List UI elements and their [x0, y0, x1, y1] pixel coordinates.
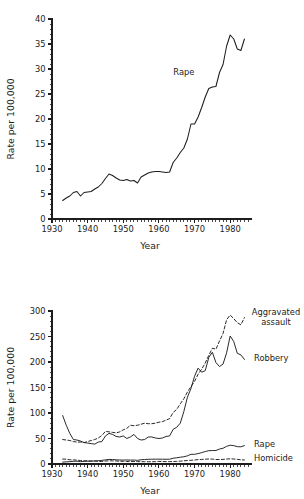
y-tick-label: 25: [35, 89, 46, 99]
y-ticks: 050100150200250300: [30, 306, 52, 469]
x-minor-ticks: [56, 464, 248, 467]
plot-top: 0510152025303540193019401950196019701980…: [0, 0, 304, 250]
y-axis-title: Rate per 100,000: [5, 78, 16, 159]
x-tick-label: 1940: [77, 224, 98, 234]
axes: [52, 310, 252, 464]
series-label-annotation: Rape: [173, 67, 194, 77]
axes: [52, 18, 252, 219]
y-tick-label: 200: [30, 357, 46, 367]
y-tick-label: 35: [35, 39, 46, 49]
chart-bottom-crime-rates: 0501001502002503001930194019501960197019…: [0, 249, 304, 499]
y-tick-label: 50: [35, 434, 46, 444]
y-axis-title: Rate per 100,000: [5, 347, 16, 428]
y-tick-label: 250: [30, 332, 46, 342]
x-tick-label: 1960: [148, 224, 169, 234]
series-group: [63, 315, 245, 462]
x-tick-label: 1960: [148, 469, 169, 479]
plot-bottom: 0501001502002503001930194019501960197019…: [0, 249, 304, 499]
series-group: [63, 35, 245, 201]
annotations: AggravatedassaultRobberyRapeHomicide: [252, 307, 300, 463]
series-label-annotation: Aggravatedassault: [252, 307, 300, 327]
series-line-robbery: [63, 336, 245, 444]
series-line-rape: [63, 35, 245, 201]
y-tick-label: 10: [35, 164, 46, 174]
y-tick-label: 0: [40, 214, 45, 224]
y-tick-label: 20: [35, 114, 46, 124]
x-axis-title: Year: [139, 485, 160, 496]
x-tick-label: 1950: [113, 469, 134, 479]
x-tick-label: 1970: [184, 469, 205, 479]
y-tick-label: 300: [30, 306, 46, 316]
x-minor-ticks: [56, 219, 248, 222]
chart-top-rape: 0510152025303540193019401950196019701980…: [0, 0, 304, 250]
y-tick-label: 40: [35, 14, 46, 24]
series-label-annotation: Rape: [254, 439, 275, 449]
annotations: Rape: [173, 67, 194, 77]
y-tick-label: 5: [40, 189, 45, 199]
x-tick-label: 1940: [77, 469, 98, 479]
y-ticks: 0510152025303540: [35, 14, 52, 224]
y-tick-label: 150: [30, 383, 46, 393]
x-tick-label: 1950: [113, 224, 134, 234]
x-tick-label: 1980: [220, 469, 241, 479]
x-tick-label: 1970: [184, 224, 205, 234]
x-tick-label: 1930: [41, 469, 62, 479]
y-tick-label: 30: [35, 64, 46, 74]
series-label-annotation: Robbery: [254, 353, 289, 363]
series-line-aggravated-assault: [63, 315, 245, 443]
y-tick-label: 0: [40, 459, 45, 469]
series-label-annotation: Homicide: [254, 453, 293, 463]
y-tick-label: 15: [35, 139, 46, 149]
x-tick-label: 1930: [41, 224, 62, 234]
y-tick-label: 100: [30, 408, 46, 418]
figure-container: 0510152025303540193019401950196019701980…: [0, 0, 304, 499]
x-tick-label: 1980: [220, 224, 241, 234]
